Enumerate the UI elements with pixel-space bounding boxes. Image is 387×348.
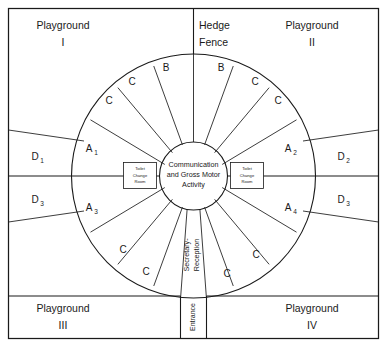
area-d1-sub: 1 xyxy=(40,157,44,164)
central-core-label-line1: Communication xyxy=(169,160,219,169)
playground-2-label-line1: Playground xyxy=(285,19,338,31)
reception-label-line2: Reception xyxy=(192,239,201,271)
toilet-change-room-right-line2: Change xyxy=(240,173,255,178)
radial-plan-svg: Playground I Playground II Playground II… xyxy=(0,0,387,348)
room-b-tl-label: B xyxy=(163,62,170,73)
toilet-change-room-right-line3: Room xyxy=(242,179,254,184)
area-d2-sub: 2 xyxy=(346,157,350,164)
room-a3-letter: A xyxy=(86,202,93,213)
playground-4-label-line2: IV xyxy=(307,319,317,331)
room-a2-letter: A xyxy=(285,143,292,154)
room-a3-sub: 3 xyxy=(94,208,98,215)
room-a4-sub: 4 xyxy=(293,208,297,215)
area-d3-right-sub: 3 xyxy=(346,200,350,207)
room-a4-letter: A xyxy=(285,202,292,213)
central-core-label-line3: Activity xyxy=(182,180,205,189)
reception-label-line1: Secretary- xyxy=(182,238,191,272)
toilet-change-room-left-line1: Toilet xyxy=(135,166,145,171)
toilet-change-room-left-line3: Room xyxy=(135,179,147,184)
playground-3-label-line1: Playground xyxy=(36,302,89,314)
room-c-bl-inner-label: C xyxy=(142,266,149,277)
hedge-fence-label-line1: Hedge xyxy=(199,19,230,31)
room-c-br-outer-label: C xyxy=(252,249,259,260)
room-b-tr-label: B xyxy=(218,62,225,73)
area-d1-letter: D xyxy=(31,151,38,162)
playground-3-label-line2: III xyxy=(59,319,68,331)
playground-2-label-line2: II xyxy=(309,36,315,48)
toilet-change-room-left-line2: Change xyxy=(133,173,148,178)
area-d3-left-sub: 3 xyxy=(40,200,44,207)
room-c-tr-outer-label: C xyxy=(274,95,281,106)
room-c-br-inner-label: C xyxy=(223,268,230,279)
playground-1-label-line1: Playground xyxy=(36,19,89,31)
toilet-change-room-right-line1: Toilet xyxy=(242,166,252,171)
room-a1-sub: 1 xyxy=(94,149,98,156)
entrance-label: Entrance xyxy=(189,303,196,331)
room-c-bl-outer-label: C xyxy=(119,244,126,255)
playground-1-label-line2: I xyxy=(62,36,65,48)
playground-4-label-line1: Playground xyxy=(285,302,338,314)
area-d2-letter: D xyxy=(337,151,344,162)
central-core-label-line2: and Gross Motor xyxy=(167,170,221,179)
room-c-tl-inner-label: C xyxy=(128,76,135,87)
room-c-tr-inner-label: C xyxy=(251,76,258,87)
diagram-canvas: Playground I Playground II Playground II… xyxy=(0,0,387,348)
room-c-tl-outer-label: C xyxy=(105,95,112,106)
area-d3-right-letter: D xyxy=(337,194,344,205)
area-d3-left-letter: D xyxy=(31,194,38,205)
room-a2-sub: 2 xyxy=(293,149,297,156)
room-a1-letter: A xyxy=(86,143,93,154)
hedge-fence-label-line2: Fence xyxy=(199,36,228,48)
